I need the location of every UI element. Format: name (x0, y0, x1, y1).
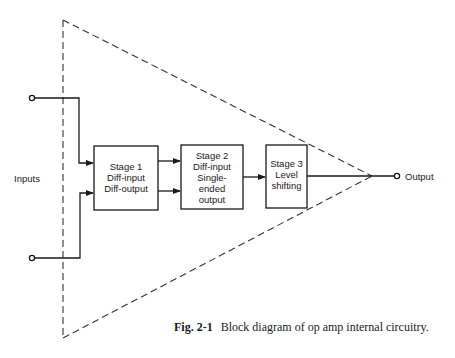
input-terminal-2 (29, 255, 34, 260)
input-wires (35, 98, 93, 258)
stage-2-line-1: Stage 2 (196, 150, 229, 161)
op-amp-block-diagram: Inputs Stage 1 Diff-input Diff-output St… (0, 0, 455, 358)
stage-2-line-5: output (199, 194, 226, 205)
stage-1-line-3: Diff-output (104, 183, 148, 194)
stage-1-to-2-wires (158, 161, 180, 191)
stage-2-line-2: Diff-input (193, 161, 231, 172)
figure-caption-text: Block diagram of op amp internal circuit… (221, 320, 429, 334)
input-terminal-1 (29, 95, 34, 100)
stage-2-line-3: Single- (197, 172, 227, 183)
inputs-label: Inputs (14, 173, 40, 184)
stage-2-block: Stage 2 Diff-input Single- ended output (181, 145, 243, 209)
figure-caption: Fig. 2-1Block diagram of op amp internal… (174, 320, 429, 335)
output-terminal (394, 173, 399, 178)
stage-1-line-1: Stage 1 (110, 161, 143, 172)
stage-3-line-3: shifting (271, 180, 301, 191)
figure-number: Fig. 2-1 (174, 320, 213, 334)
stage-2-line-4: ended (199, 183, 225, 194)
stage-1-block: Stage 1 Diff-input Diff-output (94, 146, 158, 210)
output-label: Output (405, 171, 434, 182)
stage-3-line-1: Stage 3 (270, 158, 303, 169)
stage-3-block: Stage 3 Level shifting (266, 145, 307, 208)
stage-1-line-2: Diff-input (107, 172, 145, 183)
stage-3-line-2: Level (275, 169, 298, 180)
